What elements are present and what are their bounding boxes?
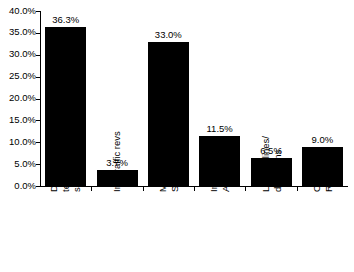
x-axis-category-label-line: Domestic [48,152,60,192]
y-axis-tick-label: 20.0% [9,93,36,103]
y-axis-tick-label: 15.0% [9,115,36,125]
x-axis-tick-mark [91,187,92,191]
y-axis-tick-label: 40.0% [9,6,36,16]
x-axis-category-label-line: Leased lines/ [260,136,272,192]
bar-value-label: 36.3% [36,14,96,25]
x-axis-category-label-line: data trans. [271,136,283,192]
y-axis-line [40,11,41,187]
x-axis-category-label-line: telecom [60,152,72,192]
x-axis-tick-mark [194,187,195,191]
x-axis-category-label: Domestictelecomservices [48,152,83,192]
x-axis-category-label-line: Other [311,149,323,192]
x-axis-category-label-line: Mobile [157,156,169,192]
x-axis-category-label: Int'l traffic revs [111,131,123,192]
x-axis-category-label: OtherRevenues [311,149,334,192]
y-axis-tick-label: 0.0% [14,181,36,191]
x-axis-category-label-line: services [71,152,83,192]
y-axis-tick-label: 25.0% [9,71,36,81]
x-axis-tick-mark [143,187,144,191]
bar-value-label: 11.5% [190,123,250,134]
x-axis-tick-mark [297,187,298,191]
y-axis-tick-labels: 0.0%5.0%10.0%15.0%20.0%25.0%30.0%35.0%40… [0,0,36,272]
x-axis-category-label: Leased lines/data trans. [260,136,283,192]
bar-chart: 0.0%5.0%10.0%15.0%20.0%25.0%30.0%35.0%40… [0,0,354,272]
y-axis-tick-label: 35.0% [9,27,36,37]
x-axis-category-label-line: Activities [220,140,232,192]
bar-value-label: 9.0% [292,134,352,145]
x-axis-category-label-line: Services [168,156,180,192]
y-axis-tick-label: 30.0% [9,49,36,59]
bar-value-label: 33.0% [138,29,198,40]
x-axis-category-label: MobileServices [157,156,180,192]
x-axis-category-label-line: Revenues [322,149,334,192]
x-axis-category-label-line: Int'l traffic revs [111,131,123,192]
x-axis-category-label: InternationalActivities [208,140,231,192]
y-axis-tick-label: 10.0% [9,137,36,147]
x-axis-tick-mark [245,187,246,191]
y-axis-tick-label: 5.0% [14,159,36,169]
x-axis-category-label-line: International [208,140,220,192]
